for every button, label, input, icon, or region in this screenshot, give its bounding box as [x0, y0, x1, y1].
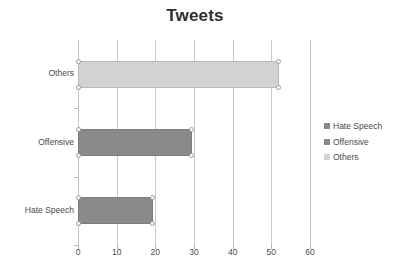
- bar-selection-handle[interactable]: [76, 85, 81, 90]
- bar-selection-handle[interactable]: [150, 221, 155, 226]
- x-tick-mark: [310, 245, 311, 249]
- x-axis-labels: 0102030405060: [0, 247, 407, 263]
- bar-selection-handle[interactable]: [150, 195, 155, 200]
- y-tick-mark: [74, 245, 78, 246]
- bar-selection-handle[interactable]: [76, 153, 81, 158]
- bar-offensive[interactable]: [78, 129, 192, 156]
- bar-selection-handle[interactable]: [76, 59, 81, 64]
- bar-selection-handle[interactable]: [276, 85, 281, 90]
- x-tick-mark: [117, 245, 118, 249]
- y-category-label: Offensive: [2, 137, 74, 147]
- bar-selection-handle[interactable]: [76, 195, 81, 200]
- bar-selection-handle[interactable]: [76, 221, 81, 226]
- bar-others[interactable]: [78, 61, 279, 88]
- x-tick-mark: [78, 245, 79, 249]
- x-tick-mark: [155, 245, 156, 249]
- y-category-label: Hate Speech: [2, 205, 74, 215]
- y-tick-mark: [74, 108, 78, 109]
- bar-hate-speech[interactable]: [78, 197, 153, 224]
- legend-label: Offensive: [333, 138, 369, 147]
- legend-label: Hate Speech: [333, 122, 382, 131]
- bar-selection-handle[interactable]: [76, 127, 81, 132]
- chart-legend: Hate SpeechOffensiveOthers: [324, 122, 404, 169]
- bar-selection-handle[interactable]: [276, 59, 281, 64]
- legend-item[interactable]: Hate Speech: [324, 122, 404, 131]
- x-tick-mark: [233, 245, 234, 249]
- legend-swatch-icon: [324, 154, 330, 160]
- plot-area: [78, 40, 310, 245]
- chart-title: Tweets: [0, 6, 390, 26]
- bar-selection-handle[interactable]: [189, 153, 194, 158]
- gridline: [310, 40, 311, 245]
- y-tick-mark: [74, 177, 78, 178]
- y-category-label: Others: [2, 68, 74, 78]
- bar-selection-handle[interactable]: [189, 127, 194, 132]
- x-tick-mark: [194, 245, 195, 249]
- legend-item[interactable]: Offensive: [324, 138, 404, 147]
- legend-swatch-icon: [324, 123, 330, 129]
- legend-label: Others: [333, 153, 359, 162]
- y-axis-labels: OthersOffensiveHate Speech: [0, 40, 74, 245]
- bar-chart: Tweets OthersOffensiveHate Speech 010203…: [0, 0, 407, 276]
- x-tick-mark: [271, 245, 272, 249]
- legend-item[interactable]: Others: [324, 153, 404, 162]
- legend-swatch-icon: [324, 139, 330, 145]
